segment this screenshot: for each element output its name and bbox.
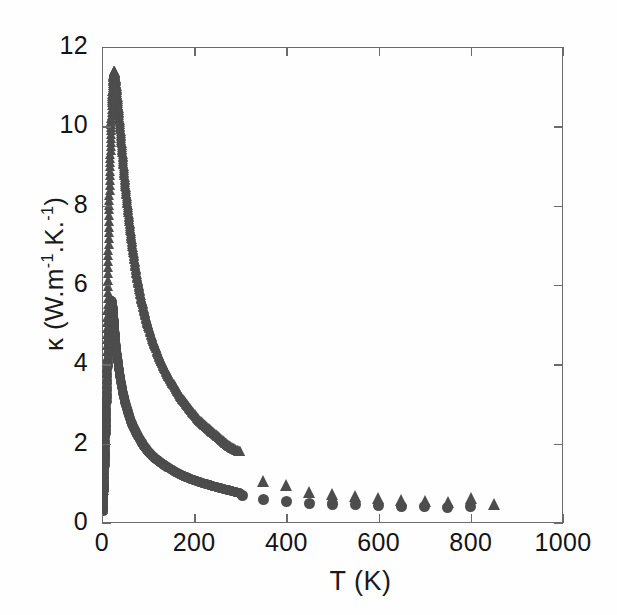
y-axis-mid: .K. (39, 221, 69, 254)
x-tick-400 (286, 47, 287, 56)
x-tick-600 (379, 47, 380, 56)
y-tick-12 (102, 47, 111, 48)
y-tick-2 (102, 444, 111, 445)
data-point-circle (465, 501, 476, 512)
x-tick-0 (102, 514, 103, 523)
data-point-triangle (235, 446, 245, 456)
y-axis-exponent-2: -1 (38, 206, 56, 221)
plot-area (102, 47, 563, 523)
y-tick-6 (554, 285, 563, 286)
x-tick-1000 (563, 514, 564, 523)
data-point-triangle (488, 498, 500, 510)
x-tick-label-1000: 1000 (503, 528, 617, 557)
x-tick-200 (194, 514, 195, 523)
y-tick-10 (554, 126, 563, 127)
x-tick-800 (471, 514, 472, 523)
data-point-triangle (280, 479, 292, 491)
data-point-circle (350, 499, 361, 510)
y-axis-title: κ (W.m-1.K.-1) (38, 124, 70, 424)
y-tick-label-0: 0 (28, 507, 88, 536)
y-axis-exponent-1: -1 (38, 253, 56, 268)
data-point-triangle (257, 475, 269, 487)
chart-figure: 02004006008001000 024681012 T (K) κ (W.m… (0, 0, 617, 615)
y-tick-12 (554, 47, 563, 48)
y-tick-0 (102, 523, 111, 524)
data-point-circle (327, 498, 338, 509)
data-point-circle (258, 494, 269, 505)
data-point-circle (442, 502, 453, 513)
data-point-circle (396, 501, 407, 512)
x-tick-800 (471, 47, 472, 56)
x-axis-title: T (K) (0, 566, 617, 597)
y-tick-2 (554, 444, 563, 445)
y-tick-4 (102, 364, 111, 365)
data-point-triangle (303, 486, 315, 498)
x-tick-600 (379, 514, 380, 523)
data-point-circle (373, 500, 384, 511)
y-tick-4 (554, 364, 563, 365)
data-point-circle (237, 490, 248, 501)
x-tick-200 (194, 47, 195, 56)
y-axis-symbol: κ (39, 338, 69, 351)
y-axis-close: ) (39, 197, 69, 206)
y-tick-label-2: 2 (28, 428, 88, 457)
data-point-circle (304, 498, 315, 509)
data-point-circle (419, 501, 430, 512)
x-axis-title-text: T (K) (330, 566, 392, 596)
data-point-circle (281, 496, 292, 507)
y-tick-8 (102, 206, 111, 207)
y-axis-open: (W.m (39, 268, 69, 337)
y-tick-label-12: 12 (28, 31, 88, 60)
x-tick-1000 (563, 47, 564, 56)
y-tick-8 (554, 206, 563, 207)
y-tick-10 (102, 126, 111, 127)
y-tick-0 (554, 523, 563, 524)
y-tick-6 (102, 285, 111, 286)
x-tick-400 (286, 514, 287, 523)
